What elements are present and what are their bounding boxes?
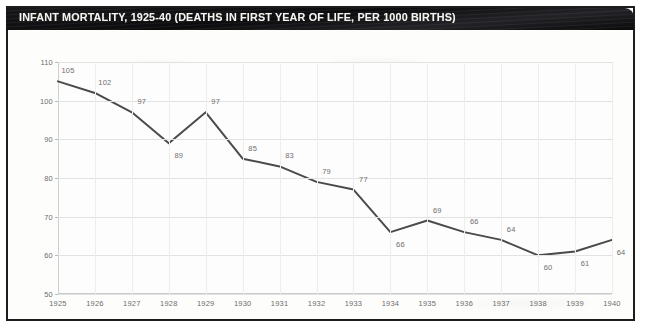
data-point-label: 69	[433, 205, 442, 214]
gridline-vertical	[95, 62, 96, 294]
x-axis-tick-label: 1936	[456, 299, 474, 308]
y-tick-mark	[55, 217, 58, 218]
x-axis-tick-label: 1925	[49, 299, 67, 308]
plot-panel: 5060708090100110192519261927192819291930…	[22, 54, 622, 302]
gridline-horizontal	[58, 178, 612, 179]
data-point-label: 97	[137, 97, 146, 106]
plot-area: 5060708090100110192519261927192819291930…	[58, 62, 612, 294]
y-tick-mark	[55, 178, 58, 179]
x-axis-tick-label: 1933	[345, 299, 363, 308]
x-axis-tick-label: 1930	[234, 299, 252, 308]
gridline-vertical	[317, 62, 318, 294]
y-axis-tick-label: 90	[44, 135, 53, 144]
y-axis-tick-label: 70	[44, 212, 53, 221]
data-point-label: 60	[544, 263, 553, 272]
data-point-label: 89	[174, 151, 183, 160]
x-axis-tick-label: 1935	[419, 299, 437, 308]
screenshot-root: INFANT MORTALITY, 1925-40 (DEATHS IN FIR…	[0, 0, 667, 333]
y-tick-mark	[55, 62, 58, 63]
gridline-vertical	[501, 62, 502, 294]
y-axis-tick-label: 80	[44, 174, 53, 183]
x-axis-tick-label: 1926	[86, 299, 104, 308]
x-axis-tick-label: 1932	[308, 299, 326, 308]
gridline-vertical	[206, 62, 207, 294]
x-axis-tick-label: 1938	[529, 299, 547, 308]
y-tick-mark	[55, 139, 58, 140]
y-axis-tick-label: 100	[40, 96, 53, 105]
x-axis-tick-label: 1940	[603, 299, 621, 308]
y-axis-tick-label: 50	[44, 290, 53, 299]
x-axis-tick-label: 1929	[197, 299, 215, 308]
data-point-label: 66	[470, 217, 479, 226]
y-axis-tick-label: 60	[44, 251, 53, 260]
y-tick-mark	[55, 294, 58, 295]
data-point-label: 85	[248, 143, 257, 152]
x-axis-tick-label: 1931	[271, 299, 289, 308]
gridline-horizontal	[58, 294, 612, 295]
gridline-vertical	[538, 62, 539, 294]
data-point-label: 97	[211, 97, 220, 106]
data-point-label: 77	[359, 174, 368, 183]
gridline-vertical	[243, 62, 244, 294]
data-point-label: 64	[617, 247, 626, 256]
x-axis-tick-label: 1927	[123, 299, 141, 308]
gridline-vertical	[427, 62, 428, 294]
x-axis-tick-label: 1939	[566, 299, 584, 308]
gridline-horizontal	[58, 62, 612, 63]
gridline-horizontal	[58, 255, 612, 256]
gridline-vertical	[280, 62, 281, 294]
data-point-label: 66	[396, 240, 405, 249]
gridline-vertical	[575, 62, 576, 294]
gridline-vertical	[612, 62, 613, 294]
page-title: INFANT MORTALITY, 1925-40 (DEATHS IN FIR…	[19, 11, 456, 23]
data-point-label: 61	[581, 259, 590, 268]
gridline-vertical	[353, 62, 354, 294]
x-axis-tick-label: 1937	[492, 299, 510, 308]
series-polyline	[58, 81, 612, 255]
data-point-label: 83	[285, 151, 294, 160]
data-point-label: 79	[322, 166, 331, 175]
gridline-vertical	[390, 62, 391, 294]
gridline-vertical	[132, 62, 133, 294]
gridline-horizontal	[58, 217, 612, 218]
y-axis-tick-label: 110	[40, 58, 53, 67]
data-point-label: 64	[507, 224, 516, 233]
gridline-vertical	[464, 62, 465, 294]
gridline-vertical	[169, 62, 170, 294]
data-point-label: 105	[61, 66, 74, 75]
y-tick-mark	[55, 255, 58, 256]
data-point-label: 102	[98, 77, 111, 86]
chart-title-banner: INFANT MORTALITY, 1925-40 (DEATHS IN FIR…	[6, 8, 634, 30]
x-axis-tick-label: 1928	[160, 299, 178, 308]
gridline-horizontal	[58, 139, 612, 140]
x-axis-tick-label: 1934	[382, 299, 400, 308]
y-tick-mark	[55, 101, 58, 102]
